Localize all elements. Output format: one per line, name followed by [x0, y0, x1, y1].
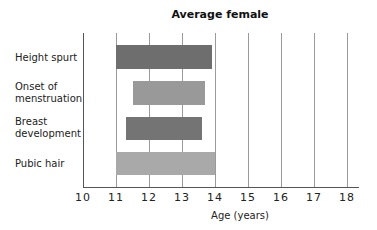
x-axis-line — [83, 187, 359, 188]
category-label-line: Breast — [15, 116, 81, 128]
category-label-line: menstruation — [15, 93, 82, 105]
x-tick-label: 13 — [172, 191, 192, 204]
gridline — [281, 33, 282, 187]
x-tick-label: 16 — [271, 191, 291, 204]
range-bar-pubic-hair — [116, 152, 215, 175]
x-tick-label: 10 — [73, 191, 93, 204]
category-label-line: Height spurt — [15, 52, 77, 64]
x-tick-label: 12 — [139, 191, 159, 204]
range-bar-height-spurt — [116, 45, 212, 69]
category-label-breast-development: Breast development — [15, 116, 81, 140]
category-label-height-spurt: Height spurt — [15, 52, 77, 64]
y-axis-line — [83, 33, 84, 188]
category-label-onset-of-menstruation: Onset of menstruation — [15, 81, 82, 105]
range-bar-breast-development — [126, 117, 202, 140]
x-tick-label: 14 — [205, 191, 225, 204]
x-tick-label: 17 — [304, 191, 324, 204]
category-label-line: Onset of — [15, 81, 82, 93]
x-tick-label: 11 — [106, 191, 126, 204]
gridline — [215, 33, 216, 187]
range-bar-onset-of-menstruation — [133, 81, 206, 105]
gridline — [347, 33, 348, 187]
category-label-pubic-hair: Pubic hair — [15, 158, 64, 170]
category-label-line: Pubic hair — [15, 158, 64, 170]
gridline — [248, 33, 249, 187]
x-tick-label: 18 — [337, 191, 357, 204]
chart-plot-area: 101112131415161718 — [0, 0, 377, 230]
x-tick-label: 15 — [238, 191, 258, 204]
x-axis-label: Age (years) — [190, 210, 290, 221]
category-label-line: development — [15, 128, 81, 140]
gridline — [314, 33, 315, 187]
